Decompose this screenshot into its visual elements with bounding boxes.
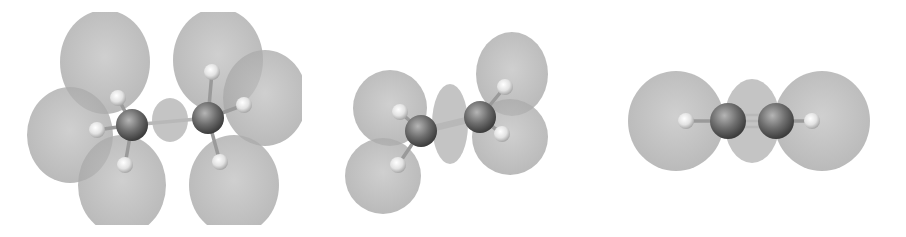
carbon-atom [464, 101, 496, 133]
ethylene-molecule [345, 32, 548, 214]
acetylene-molecule [628, 71, 870, 171]
hydrogen-atom [678, 113, 694, 129]
carbon-atom [405, 115, 437, 147]
hydrogen-atom [804, 113, 820, 129]
carbon-atom [192, 102, 224, 134]
carbon-atom [116, 109, 148, 141]
orbital-lobe [78, 135, 166, 235]
hydrogen-atom [110, 90, 126, 106]
hydrogen-atom [236, 97, 252, 113]
molecular-orbital-figure [0, 0, 906, 237]
carbon-atom [710, 103, 746, 139]
hydrogen-atom [89, 122, 105, 138]
hydrogen-atom [212, 154, 228, 170]
hydrogen-atom [497, 79, 513, 95]
ethane-molecule [27, 8, 307, 235]
hydrogen-atom [117, 157, 133, 173]
hydrogen-atom [494, 126, 510, 142]
orbital-lobe [189, 135, 279, 235]
hydrogen-atom [392, 104, 408, 120]
hydrogen-atom [204, 64, 220, 80]
orbital-diagram-canvas [0, 0, 906, 237]
hydrogen-atom [390, 157, 406, 173]
carbon-atom [758, 103, 794, 139]
orbital-lobe [223, 50, 307, 146]
